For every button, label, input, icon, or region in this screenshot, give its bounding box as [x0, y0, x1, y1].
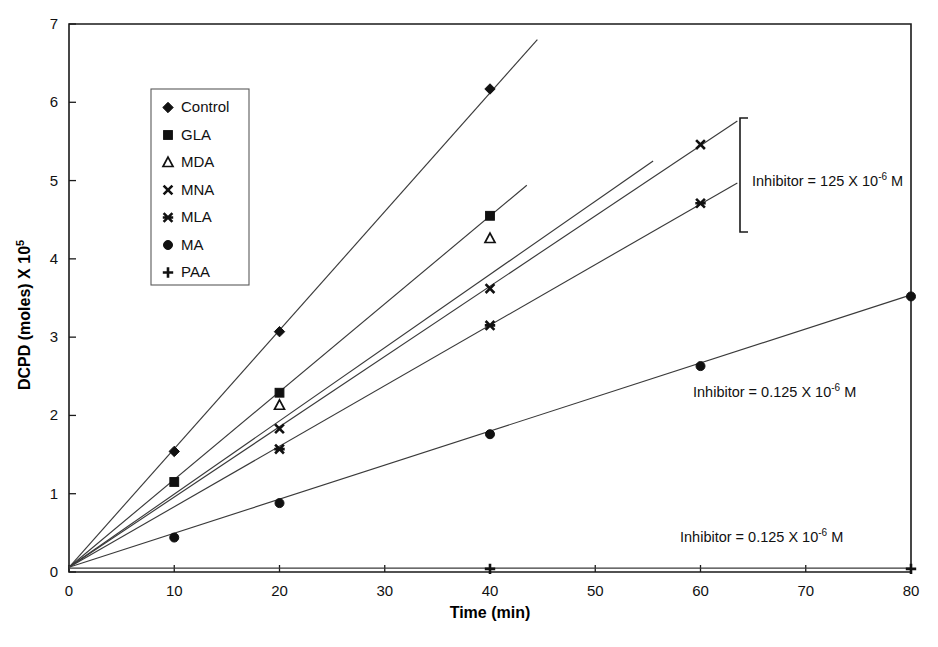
- legend-label-control: Control: [181, 98, 229, 115]
- y-tick-label: 2: [50, 406, 58, 423]
- x-tick-label: 30: [376, 582, 393, 599]
- x-axis-title: Time (min): [450, 604, 531, 621]
- y-tick-label: 4: [50, 250, 58, 267]
- y-tick-label: 6: [50, 93, 58, 110]
- y-axis-title-text: DCPD (moles) X 10: [16, 246, 33, 390]
- y-tick-label: 0: [50, 563, 58, 580]
- annotation-text-unit: M: [887, 173, 903, 189]
- annotation-text-main: Inhibitor = 0.125 X 10: [680, 529, 818, 545]
- annotation-text-unit: M: [827, 529, 843, 545]
- x-tick-label: 0: [65, 582, 73, 599]
- y-axis-title: DCPD (moles) X 105: [14, 240, 33, 390]
- data-point-gla: [275, 388, 284, 397]
- annotation-text-main: Inhibitor = 0.125 X 10: [693, 384, 831, 400]
- data-point-gla: [486, 211, 495, 220]
- x-tick-label: 20: [271, 582, 288, 599]
- legend: ControlGLAMDAMNAMLAMAPAA: [151, 89, 249, 285]
- legend-label-ma: MA: [181, 236, 204, 253]
- legend-label-mna: MNA: [181, 181, 214, 198]
- legend-marker-ma: [164, 241, 173, 250]
- data-point-ma: [275, 499, 284, 508]
- data-point-ma: [696, 362, 705, 371]
- annotation-text-main: Inhibitor = 125 X 10: [752, 173, 878, 189]
- legend-label-mla: MLA: [181, 208, 212, 225]
- y-tick-label: 7: [50, 15, 58, 32]
- x-tick-label: 50: [587, 582, 604, 599]
- x-tick-label: 40: [482, 582, 499, 599]
- y-axis-title-exponent: 5: [14, 240, 26, 246]
- legend-label-paa: PAA: [181, 263, 210, 280]
- x-tick-label: 70: [797, 582, 814, 599]
- legend-label-mda: MDA: [181, 153, 214, 170]
- x-tick-label: 80: [903, 582, 920, 599]
- chart-figure: 01234567 01020304050607080 DCPD (moles) …: [0, 0, 938, 647]
- y-tick-label: 3: [50, 328, 58, 345]
- y-tick-label: 1: [50, 485, 58, 502]
- figure-background: [0, 0, 938, 647]
- y-axis-title-group: DCPD (moles) X 105: [14, 240, 33, 390]
- data-point-ma: [486, 430, 495, 439]
- y-tick-label: 5: [50, 172, 58, 189]
- data-point-ma: [907, 292, 916, 301]
- legend-marker-gla: [164, 131, 173, 140]
- x-tick-label: 10: [166, 582, 183, 599]
- data-point-gla: [170, 478, 179, 487]
- x-tick-label: 60: [692, 582, 709, 599]
- data-point-ma: [170, 533, 179, 542]
- legend-label-gla: GLA: [181, 126, 211, 143]
- annotation-text-unit: M: [840, 384, 856, 400]
